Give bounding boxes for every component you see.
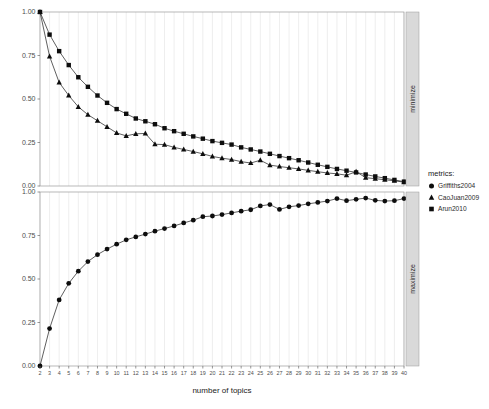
y-tick-label: 1.00 [22, 8, 36, 15]
data-point-Griffiths2004 [344, 198, 349, 203]
data-point-Arun2010 [38, 10, 42, 14]
data-point-Arun2010 [105, 101, 109, 105]
legend-label-Griffiths2004: Griffiths2004 [438, 182, 476, 189]
data-point-Arun2010 [124, 112, 128, 116]
data-point-Arun2010 [383, 176, 387, 180]
data-point-Griffiths2004 [382, 199, 387, 204]
data-point-Arun2010 [134, 116, 138, 120]
x-tick-label: 19 [200, 370, 206, 376]
data-point-Griffiths2004 [325, 199, 330, 204]
legend-marker-Arun2010 [429, 207, 434, 212]
ldatuning-faceted-line-chart: 0.000.250.500.751.00minimize0.000.250.50… [0, 0, 489, 409]
data-point-Griffiths2004 [105, 247, 110, 252]
x-tick-label: 29 [296, 370, 302, 376]
x-tick-label: 7 [86, 370, 89, 376]
strip-label-maximize: maximize [409, 264, 416, 294]
data-point-Griffiths2004 [95, 252, 100, 257]
legend-label-Arun2010: Arun2010 [438, 205, 467, 212]
data-point-Arun2010 [229, 142, 233, 146]
x-tick-label: 5 [67, 370, 70, 376]
data-point-Griffiths2004 [66, 281, 71, 286]
chart-container: 0.000.250.500.751.00minimize0.000.250.50… [0, 0, 489, 409]
data-point-Arun2010 [373, 174, 377, 178]
data-point-Griffiths2004 [229, 210, 234, 215]
data-point-Arun2010 [162, 126, 166, 130]
y-tick-label: 1.00 [22, 188, 36, 195]
data-point-Arun2010 [306, 160, 310, 164]
data-point-Griffiths2004 [200, 214, 205, 219]
data-point-Arun2010 [277, 154, 281, 158]
data-point-Griffiths2004 [402, 196, 407, 201]
x-tick-label: 34 [344, 370, 350, 376]
x-tick-label: 3 [48, 370, 51, 376]
legend: metrics:Griffiths2004CaoJuan2009Arun2010 [428, 169, 479, 212]
data-point-Arun2010 [210, 139, 214, 143]
data-point-Arun2010 [47, 32, 51, 36]
data-point-Griffiths2004 [258, 204, 263, 209]
data-point-Griffiths2004 [114, 242, 119, 247]
data-point-Griffiths2004 [143, 232, 148, 237]
y-tick-label: 0.75 [22, 232, 36, 239]
y-tick-label: 0.75 [22, 52, 36, 59]
data-point-Griffiths2004 [76, 269, 81, 274]
x-tick-label: 25 [257, 370, 263, 376]
x-tick-label: 6 [77, 370, 80, 376]
x-tick-label: 15 [162, 370, 168, 376]
x-tick-label: 40 [401, 370, 407, 376]
data-point-Arun2010 [153, 122, 157, 126]
data-point-Arun2010 [57, 49, 61, 53]
data-point-Arun2010 [172, 129, 176, 133]
data-point-Griffiths2004 [133, 234, 138, 239]
data-point-Arun2010 [86, 85, 90, 89]
data-point-Griffiths2004 [162, 226, 167, 231]
x-tick-label: 37 [372, 370, 378, 376]
legend-marker-Griffiths2004 [429, 184, 434, 189]
data-point-Arun2010 [201, 136, 205, 140]
data-point-Griffiths2004 [210, 214, 215, 219]
x-tick-label: 32 [324, 370, 330, 376]
data-point-Arun2010 [335, 167, 339, 171]
x-tick-label: 13 [142, 370, 148, 376]
x-tick-label: 14 [152, 370, 158, 376]
x-tick-label: 23 [238, 370, 244, 376]
x-tick-label: 31 [315, 370, 321, 376]
x-tick-label: 20 [209, 370, 215, 376]
data-point-Arun2010 [344, 168, 348, 172]
y-tick-label: 0.50 [22, 95, 36, 102]
x-tick-label: 17 [181, 370, 187, 376]
data-point-Arun2010 [316, 163, 320, 167]
data-point-Arun2010 [354, 170, 358, 174]
x-tick-label: 26 [267, 370, 273, 376]
data-point-Arun2010 [220, 141, 224, 145]
data-point-Griffiths2004 [335, 196, 340, 201]
data-point-Griffiths2004 [267, 202, 272, 207]
legend-title: metrics: [428, 169, 454, 178]
data-point-Arun2010 [258, 149, 262, 153]
data-point-Arun2010 [143, 119, 147, 123]
data-point-Arun2010 [114, 107, 118, 111]
x-tick-label: 21 [219, 370, 225, 376]
data-point-Griffiths2004 [172, 224, 177, 229]
x-tick-label: 36 [363, 370, 369, 376]
strip-minimize: minimize [406, 12, 419, 186]
data-point-Arun2010 [392, 178, 396, 182]
data-point-Griffiths2004 [47, 326, 52, 331]
y-tick-label: 0.25 [22, 319, 36, 326]
data-point-Arun2010 [239, 145, 243, 149]
x-tick-label: 2 [39, 370, 42, 376]
x-tick-label: 10 [114, 370, 120, 376]
x-tick-label: 18 [190, 370, 196, 376]
x-tick-label: 11 [123, 370, 129, 376]
y-tick-label: 0.50 [22, 275, 36, 282]
x-tick-label: 16 [171, 370, 177, 376]
data-point-Arun2010 [95, 93, 99, 97]
data-point-Griffiths2004 [124, 237, 129, 242]
data-point-Griffiths2004 [277, 207, 282, 212]
data-point-Arun2010 [76, 75, 80, 79]
x-tick-label: 30 [305, 370, 311, 376]
data-point-Griffiths2004 [363, 196, 368, 201]
data-point-Griffiths2004 [181, 221, 186, 226]
legend-label-CaoJuan2009: CaoJuan2009 [438, 194, 479, 201]
legend-marker-CaoJuan2009 [429, 195, 435, 200]
x-tick-label: 12 [133, 370, 139, 376]
